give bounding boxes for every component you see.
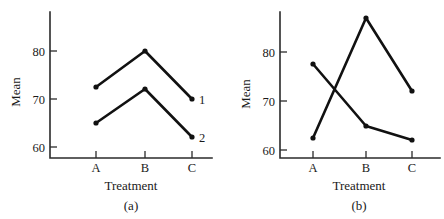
panel-b: 80 70 60 A B C Mean Treatment (b) [222, 0, 444, 219]
chart-a-series-2 [93, 86, 194, 139]
chart-b-y-tick-70: 70 [263, 95, 276, 109]
chart-a-x-ticks [96, 151, 192, 158]
chart-a-axes [50, 12, 212, 158]
chart-a-y-tick-70: 70 [33, 93, 46, 107]
chart-b-x-tick-a: A [308, 161, 317, 175]
chart-b-svg: 80 70 60 A B C Mean Treatment (b) [222, 0, 444, 219]
panel-a: 80 70 60 A B C 1 2 Mean Treatment [0, 0, 222, 219]
chart-a-y-tick-80: 80 [33, 45, 46, 59]
chart-b-series-descending [310, 61, 414, 142]
chart-a-series-1-label: 1 [199, 93, 205, 107]
chart-b-y-axis-title: Mean [238, 79, 253, 109]
chart-b-x-axis-title: Treatment [333, 178, 386, 193]
chart-b-x-tick-c: C [408, 161, 416, 175]
chart-b-x-ticks [313, 151, 412, 158]
chart-a-series-2-label: 2 [199, 131, 205, 145]
chart-a-x-tick-c: C [188, 161, 196, 175]
chart-a-y-tick-60: 60 [33, 141, 46, 155]
chart-b-y-tick-80: 80 [263, 46, 276, 60]
chart-b-y-tick-60: 60 [263, 144, 276, 158]
chart-a-x-tick-b: B [141, 161, 149, 175]
chart-a-caption: (a) [124, 198, 138, 213]
chart-a-y-axis-title: Mean [8, 77, 23, 107]
chart-b-y-ticks [280, 52, 287, 150]
chart-a-svg: 80 70 60 A B C 1 2 Mean Treatment [0, 0, 222, 219]
chart-a-x-axis-title: Treatment [105, 178, 158, 193]
chart-b-caption: (b) [351, 198, 366, 213]
chart-a-x-tick-a: A [91, 161, 100, 175]
chart-a-y-ticks [50, 51, 57, 147]
chart-a-series-1 [93, 48, 194, 101]
chart-b-x-tick-b: B [362, 161, 370, 175]
